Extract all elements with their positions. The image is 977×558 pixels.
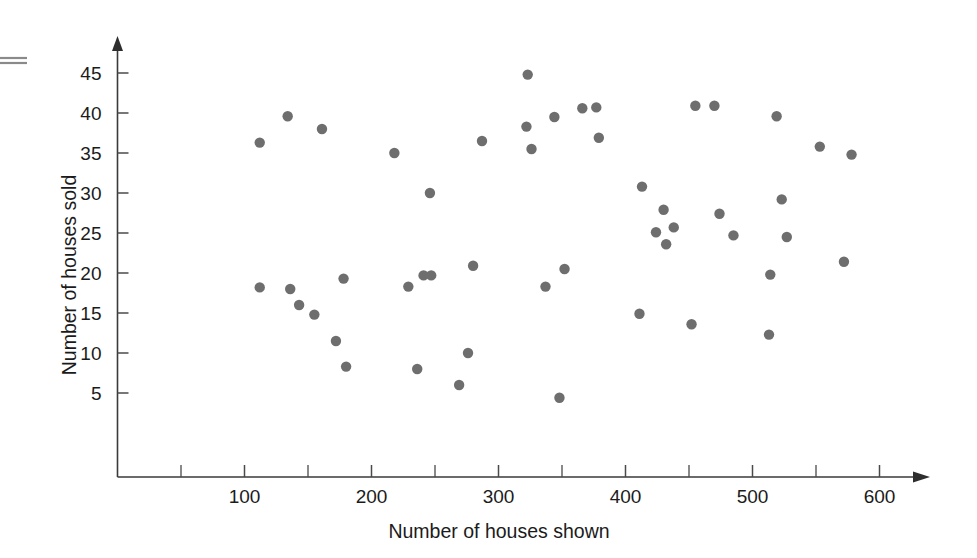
data-point — [282, 111, 292, 121]
data-point — [425, 188, 435, 198]
data-point — [285, 284, 295, 294]
data-point — [523, 69, 533, 79]
data-point — [815, 141, 825, 151]
data-point — [714, 209, 724, 219]
data-point — [331, 336, 341, 346]
x-tick-label-600: 600 — [864, 486, 896, 507]
axes-group — [112, 36, 930, 483]
data-point — [426, 270, 436, 280]
data-point — [764, 329, 774, 339]
data-point — [559, 264, 569, 274]
y-tick-label-20: 20 — [80, 263, 101, 284]
data-point — [317, 124, 327, 134]
y-axis-title: Number of houses sold — [58, 175, 80, 376]
data-point — [690, 101, 700, 111]
data-point — [782, 232, 792, 242]
data-point — [634, 309, 644, 319]
scatter-plot-figure: 51015202530354045100200300400500600 Numb… — [0, 0, 977, 558]
x-tick-label-200: 200 — [356, 486, 388, 507]
data-point — [594, 133, 604, 143]
data-point — [765, 269, 775, 279]
data-points-group — [255, 69, 857, 403]
y-tick-label-45: 45 — [80, 63, 101, 84]
x-tick-label-100: 100 — [229, 486, 261, 507]
data-point — [651, 227, 661, 237]
y-tick-label-15: 15 — [80, 303, 101, 324]
x-axis-arrow — [913, 472, 930, 483]
data-point — [591, 102, 601, 112]
y-tick-label-30: 30 — [80, 183, 101, 204]
data-point — [454, 380, 464, 390]
data-point — [637, 181, 647, 191]
y-axis-arrow — [112, 36, 123, 51]
data-point — [255, 282, 265, 292]
data-point — [777, 194, 787, 204]
data-point — [389, 148, 399, 158]
data-point — [521, 121, 531, 131]
y-tick-label-25: 25 — [80, 223, 101, 244]
data-point — [577, 103, 587, 113]
x-tick-label-400: 400 — [610, 486, 642, 507]
y-tick-label-40: 40 — [80, 103, 101, 124]
x-axis-title: Number of houses shown — [388, 520, 609, 542]
data-point — [686, 319, 696, 329]
data-point — [658, 205, 668, 215]
data-point — [463, 348, 473, 358]
margin-rule-mark — [0, 58, 27, 63]
data-point — [549, 112, 559, 122]
data-point — [412, 364, 422, 374]
data-point — [846, 149, 856, 159]
data-point — [554, 393, 564, 403]
data-point — [403, 281, 413, 291]
data-point — [728, 230, 738, 240]
data-point — [709, 101, 719, 111]
data-point — [294, 300, 304, 310]
x-tick-label-500: 500 — [737, 486, 769, 507]
data-point — [255, 137, 265, 147]
y-tick-label-10: 10 — [80, 343, 101, 364]
data-point — [468, 261, 478, 271]
y-tick-label-35: 35 — [80, 143, 101, 164]
data-point — [540, 281, 550, 291]
data-point — [309, 309, 319, 319]
data-point — [661, 239, 671, 249]
data-point — [771, 111, 781, 121]
plot-canvas: 51015202530354045100200300400500600 Numb… — [0, 0, 977, 558]
data-point — [669, 222, 679, 232]
data-point — [477, 136, 487, 146]
x-tick-label-300: 300 — [483, 486, 515, 507]
y-tick-label-5: 5 — [91, 383, 102, 404]
data-point — [526, 144, 536, 154]
data-point — [839, 257, 849, 267]
data-point — [341, 361, 351, 371]
data-point — [338, 273, 348, 283]
tick-labels-group: 51015202530354045100200300400500600 — [80, 63, 895, 507]
